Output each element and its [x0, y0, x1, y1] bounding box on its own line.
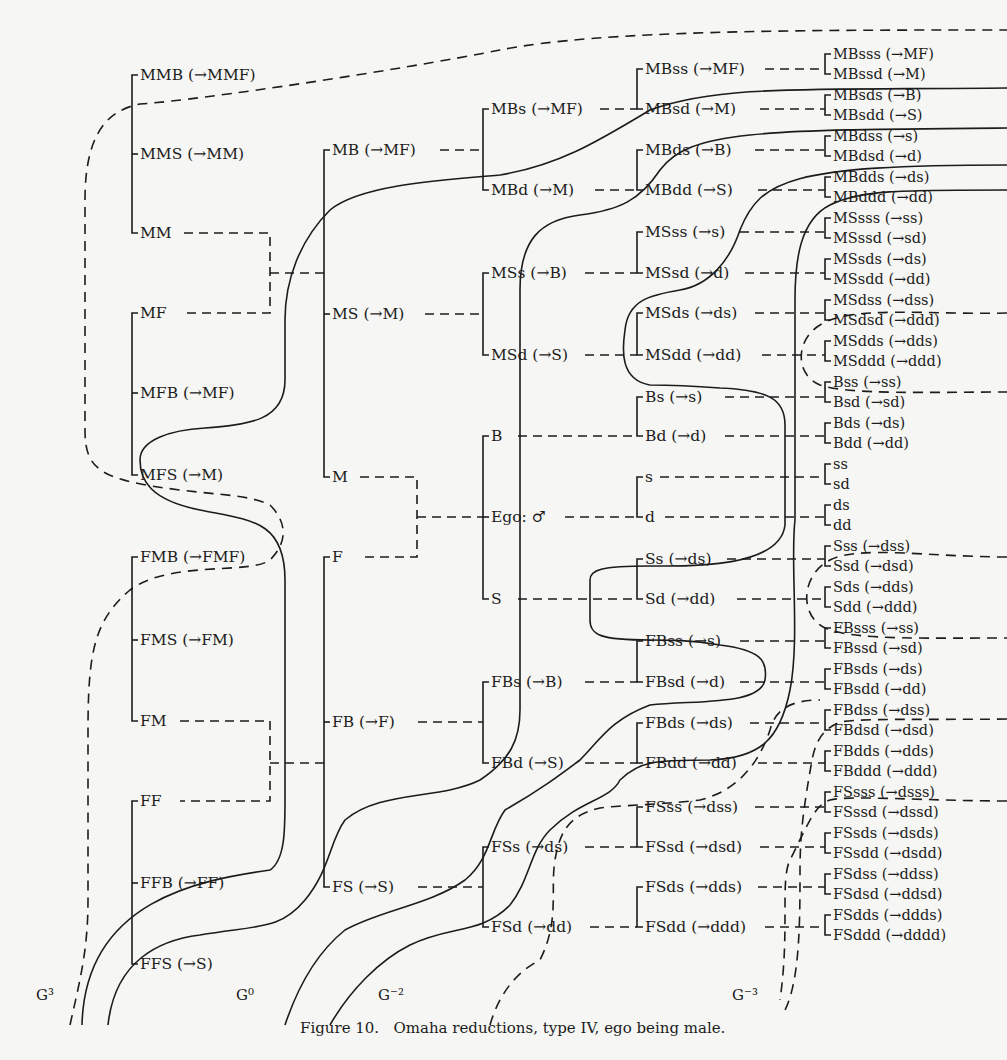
node-label: d — [645, 508, 655, 526]
node-label: s — [645, 468, 653, 486]
node-label: MSsss (→ss) — [833, 210, 923, 226]
node-label: MFB (→MF) — [140, 384, 235, 402]
node-label: FSsd (→dsd) — [645, 838, 742, 856]
column-e-labels: MBsss (→MF)MBssd (→M)MBsds (→B)MBsdd (→S… — [833, 46, 946, 943]
node-label: F — [332, 548, 343, 566]
node-label: MBdsd (→d) — [833, 148, 922, 164]
node-label: MSdss (→dss) — [833, 292, 934, 308]
node-label: M — [332, 468, 348, 486]
node-label: MF — [140, 304, 167, 322]
node-label: FBsdd (→dd) — [833, 681, 926, 697]
node-label: Bs (→s) — [645, 388, 702, 406]
column-d-labels: MBss (→MF) MBsd (→M) MBds (→B) MBdd (→S)… — [645, 60, 746, 936]
node-label: MSd (→S) — [491, 346, 568, 364]
node-label: MFS (→M) — [140, 466, 223, 484]
node-label: FBdds (→dds) — [833, 743, 934, 759]
node-label: MSsd (→d) — [645, 264, 729, 282]
node-label: FSsdd (→dsdd) — [833, 845, 942, 861]
node-label: FSssd (→dssd) — [833, 804, 939, 820]
column-d-brackets — [637, 69, 643, 927]
node-label: S — [491, 590, 502, 608]
generation-gm2-label: G⁻² — [378, 986, 404, 1004]
figure-caption: Figure 10. Omaha reductions, type IV, eg… — [300, 1019, 725, 1037]
node-label: FB (→F) — [332, 713, 395, 731]
connectors-a-b — [180, 233, 324, 801]
column-b-labels: MB (→MF) MS (→M) M F FB (→F) FS (→S) — [332, 141, 416, 896]
connectors-b-c — [360, 150, 483, 887]
node-label: FS (→S) — [332, 878, 394, 896]
node-label: FBssd (→sd) — [833, 640, 923, 656]
node-label: B — [491, 427, 502, 445]
node-label: FSdds (→ddds) — [833, 907, 942, 923]
node-label: dd — [833, 517, 852, 533]
node-label: FF — [140, 792, 162, 810]
node-label: FSsds (→dsds) — [833, 825, 939, 841]
kinship-diagram: MMB (→MMF) MMS (→MM) MM MF MFB (→MF) MFS… — [0, 0, 1007, 1060]
node-label: MBdds (→ds) — [833, 169, 929, 185]
node-label: sd — [833, 476, 850, 492]
node-label: FSdsd (→ddsd) — [833, 886, 942, 902]
node-label: MSsdd (→dd) — [833, 271, 930, 287]
node-label: MS (→M) — [332, 305, 404, 323]
node-label: ss — [833, 456, 848, 472]
node-label: MB (→MF) — [332, 141, 416, 159]
node-label: MSsds (→ds) — [833, 251, 927, 267]
generation-gm3-label: G⁻³ — [732, 986, 758, 1004]
generation-g3-label: G³ — [36, 986, 54, 1004]
node-label: MBd (→M) — [491, 181, 574, 199]
node-label: FBsd (→d) — [645, 673, 725, 691]
node-label: MSdd (→dd) — [645, 346, 741, 364]
node-label: ds — [833, 497, 850, 513]
node-label: MBsss (→MF) — [833, 46, 934, 62]
node-label: MSssd (→sd) — [833, 230, 927, 246]
node-label: MBds (→B) — [645, 141, 732, 159]
node-label: Bsd (→sd) — [833, 394, 905, 410]
generation-labels: G³ G⁰ G⁻² G⁻³ — [36, 986, 758, 1004]
node-label: FBsds (→ds) — [833, 661, 923, 677]
node-label: FFS (→S) — [140, 955, 213, 973]
node-label: Sdd (→ddd) — [833, 599, 917, 615]
column-a-labels: MMB (→MMF) MMS (→MM) MM MF MFB (→MF) MFS… — [140, 66, 256, 973]
node-label: FBd (→S) — [491, 754, 564, 772]
node-label: Sds (→dds) — [833, 579, 914, 595]
node-label: MBsdd (→S) — [833, 107, 923, 123]
node-label: Bdd (→dd) — [833, 435, 909, 451]
node-label: FBdd (→dd) — [645, 754, 737, 772]
node-label: Bds (→ds) — [833, 415, 905, 431]
node-label: MM — [140, 224, 172, 242]
node-label: MSddd (→ddd) — [833, 353, 942, 369]
node-label: FBdss (→dss) — [833, 702, 930, 718]
column-a-brackets — [132, 75, 138, 964]
node-label: MSdsd (→ddd) — [833, 312, 940, 328]
node-label: FSddd (→dddd) — [833, 927, 946, 943]
node-label: FSd (→dd) — [491, 918, 572, 936]
node-label: MSdds (→dds) — [833, 333, 938, 349]
node-label: MBss (→MF) — [645, 60, 745, 78]
node-label: Ssd (→dsd) — [833, 558, 914, 574]
node-label: FBsss (→ss) — [833, 620, 919, 636]
node-label: MMB (→MMF) — [140, 66, 256, 84]
node-label: Sd (→dd) — [645, 590, 715, 608]
node-label: FM — [140, 712, 167, 730]
node-label: FSds (→dds) — [645, 878, 742, 896]
column-c-brackets — [483, 109, 489, 927]
node-label: Bd (→d) — [645, 427, 706, 445]
node-label: FSss (→dss) — [645, 798, 738, 816]
node-label: FBdsd (→dsd) — [833, 722, 934, 738]
node-label: Sss (→dss) — [833, 538, 910, 554]
node-label: MSss (→s) — [645, 223, 725, 241]
node-label: FSdss (→ddss) — [833, 866, 939, 882]
generation-g0-label: G⁰ — [236, 986, 254, 1004]
node-label: FSdd (→ddd) — [645, 918, 746, 936]
node-label: MBsd (→M) — [645, 100, 736, 118]
node-label: MBssd (→M) — [833, 66, 926, 82]
node-label: MBdd (→S) — [645, 181, 733, 199]
node-label: FBds (→ds) — [645, 714, 733, 732]
node-label: FBs (→B) — [491, 673, 563, 691]
node-label: MBs (→MF) — [491, 100, 583, 118]
node-label: MSs (→B) — [491, 264, 567, 282]
node-label: MSds (→ds) — [645, 304, 737, 322]
ego-label: Ego: ♂ — [491, 508, 546, 526]
column-e-brackets — [825, 54, 831, 935]
node-label: FMB (→FMF) — [140, 548, 245, 566]
